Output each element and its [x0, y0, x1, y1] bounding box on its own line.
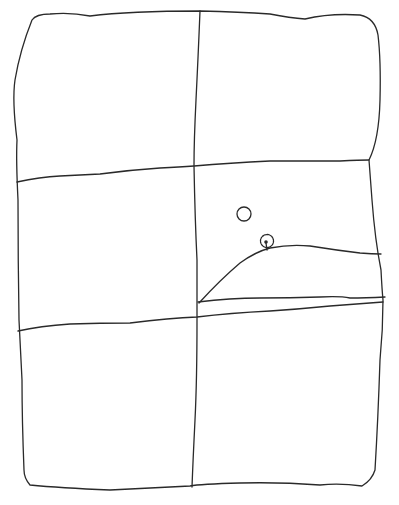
- outer-frame: [14, 11, 383, 490]
- sketch-drawing: [0, 0, 399, 505]
- ground-line-upper: [198, 297, 385, 302]
- bottom-horizontal-divider: [18, 302, 383, 331]
- top-horizontal-divider: [17, 160, 369, 182]
- hill-line: [199, 245, 381, 303]
- sun-circle-icon: [237, 207, 251, 221]
- vertical-divider: [192, 11, 200, 487]
- sketch-canvas: [0, 0, 399, 505]
